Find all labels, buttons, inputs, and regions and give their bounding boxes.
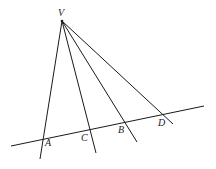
label-A: A	[44, 137, 52, 148]
transversal-line	[11, 106, 204, 146]
vertex-point	[61, 20, 64, 23]
label-B: B	[118, 124, 124, 135]
ray-VB	[62, 21, 137, 142]
ray-VC	[62, 21, 96, 153]
label-C: C	[81, 132, 88, 143]
label-D: D	[157, 117, 166, 128]
label-V: V	[58, 7, 66, 18]
ray-VD	[62, 21, 173, 124]
geometry-diagram: V A C B D	[0, 0, 216, 169]
